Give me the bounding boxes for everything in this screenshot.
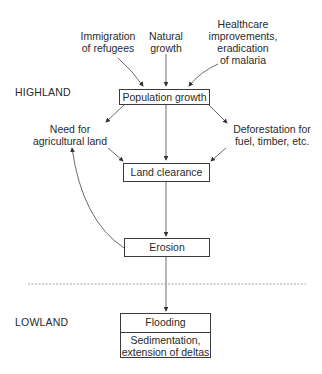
label-line: Sedimentation, <box>121 334 210 346</box>
zone-label-lowland: LOWLAND <box>15 316 68 328</box>
label-line: of refugees <box>68 42 148 54</box>
arrow-erosion-to-need <box>72 148 124 248</box>
arrow-immigration-to-population <box>118 58 143 86</box>
label-line: Deforestation for <box>226 123 318 135</box>
label-line: agricultural land <box>28 135 112 147</box>
node-erosion: Erosion <box>124 238 210 257</box>
node-need-for-agricultural-land: Need for agricultural land <box>28 123 112 147</box>
label-line: growth <box>140 42 192 54</box>
label-line: eradication <box>205 42 281 54</box>
input-natural-growth: Natural growth <box>140 30 192 54</box>
flooding-title: Flooding <box>121 314 210 333</box>
node-flooding: Flooding Sedimentation, extension of del… <box>120 313 211 358</box>
node-population-growth: Population growth <box>119 89 210 105</box>
label-line: Healthcare <box>205 18 281 30</box>
label-line: fuel, timber, etc. <box>226 135 318 147</box>
input-immigration: Immigration of refugees <box>68 30 148 54</box>
arrow-population-to-deforestation <box>209 105 227 123</box>
zone-label-highland: HIGHLAND <box>15 86 71 98</box>
node-deforestation: Deforestation for fuel, timber, etc. <box>226 123 318 147</box>
node-land-clearance: Land clearance <box>123 163 210 182</box>
arrow-need-to-clearance <box>108 148 123 161</box>
label-line: of malaria <box>205 54 281 66</box>
label-line: Natural <box>140 30 192 42</box>
input-healthcare: Healthcare improvements, eradication of … <box>205 18 281 66</box>
arrow-deforestation-to-clearance <box>211 148 226 161</box>
label-line: Need for <box>28 123 112 135</box>
label-line: Immigration <box>68 30 148 42</box>
label-line: extension of deltas <box>121 346 210 358</box>
label-line: improvements, <box>205 30 281 42</box>
arrow-healthcare-to-population <box>189 64 218 86</box>
arrow-population-to-need <box>106 105 124 122</box>
sedimentation-text: Sedimentation, extension of deltas <box>121 333 210 358</box>
